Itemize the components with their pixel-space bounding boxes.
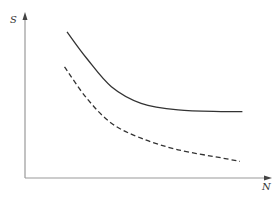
x-axis-label: N (262, 181, 271, 192)
chart: S N (0, 0, 279, 202)
y-axis-label: S (10, 14, 17, 25)
solid-curve (67, 32, 242, 112)
dashed-curve (65, 67, 240, 162)
x-axis-arrow-icon (264, 176, 272, 181)
y-axis-arrow-icon (23, 12, 28, 20)
plot-area (0, 0, 279, 202)
